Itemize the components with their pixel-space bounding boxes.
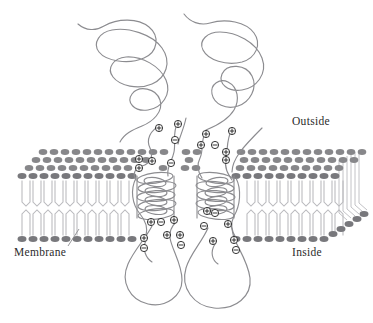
negative-charge-icon [140, 244, 147, 251]
diagram-canvas: Outside Inside Membrane [0, 0, 373, 323]
upper-leaflet-heads [18, 149, 367, 179]
negative-charge-icon [211, 141, 218, 148]
intracellular-tail-right [212, 244, 218, 264]
extracellular-loop-right [184, 14, 264, 130]
positive-charge-icon [147, 218, 154, 225]
membrane-protein-diagram: Outside Inside Membrane [0, 0, 373, 323]
positive-charge-icon [222, 156, 229, 163]
positive-charge-icon [228, 127, 235, 134]
positive-charge-icon [140, 234, 147, 241]
intracellular-loop-right [185, 222, 251, 308]
extracellular-loop-left [78, 20, 168, 142]
positive-charge-icon [224, 220, 231, 227]
negative-charge-icon [200, 222, 207, 229]
negative-charge-icon [167, 159, 174, 166]
upper-leaflet-tails-right [247, 181, 343, 206]
positive-charge-icon [135, 164, 142, 171]
positive-charge-icon [197, 141, 204, 148]
label-outside: Outside [292, 115, 330, 127]
negative-charge-icon [171, 136, 178, 143]
positive-charge-icon [135, 155, 142, 162]
lower-leaflet-tails [22, 210, 129, 235]
extracellular-loops [78, 14, 264, 142]
positive-charge-icon [170, 216, 177, 223]
lower-leaflet-tails-right [247, 210, 343, 235]
label-inside: Inside [292, 246, 322, 258]
label-membrane: Membrane [14, 246, 66, 258]
c-terminal-tail [232, 128, 262, 172]
head-row-3 [25, 165, 344, 171]
chain-segment-left-b [168, 122, 178, 176]
terminal-tails [178, 118, 262, 172]
intracellular-loop-left [125, 222, 182, 305]
head-row-2 [32, 157, 359, 163]
positive-charge-icon [176, 231, 183, 238]
positive-charge-icon [203, 207, 210, 214]
positive-charge-icon [155, 124, 162, 131]
upper-leaflet-tails [22, 181, 129, 206]
positive-charge-icon [222, 148, 229, 155]
negative-charge-icon [211, 209, 218, 216]
positive-charge-icon [174, 120, 181, 127]
positive-charge-icon [209, 237, 216, 244]
negative-charge-icon [177, 241, 184, 248]
head-row-1 [39, 149, 367, 155]
helix-bundle-left [137, 171, 177, 221]
lower-leaflet-heads [18, 211, 369, 242]
positive-charge-icon [230, 236, 237, 243]
transmembrane-helices [137, 171, 236, 221]
positive-charge-icon [148, 157, 155, 164]
negative-charge-icon [232, 246, 239, 253]
head-row-4 [18, 173, 340, 179]
lipid-bilayer [18, 149, 369, 242]
chain-segment-right-a [198, 132, 206, 178]
positive-charge-icon [202, 130, 209, 137]
negative-charge-icon [157, 218, 164, 225]
positive-charge-icon [163, 231, 170, 238]
charge-markers-layer [135, 120, 239, 253]
